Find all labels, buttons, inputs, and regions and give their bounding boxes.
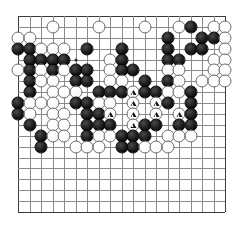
triangle-mark-icon xyxy=(130,123,136,128)
triangle-mark-icon xyxy=(176,112,182,117)
triangle-mark-icon xyxy=(107,112,113,117)
white-stone[interactable] xyxy=(92,140,105,153)
goban-grid[interactable] xyxy=(18,16,225,212)
grid-line-vertical xyxy=(214,16,215,212)
black-stone[interactable] xyxy=(35,140,48,153)
grid-line-horizontal xyxy=(18,190,225,191)
black-stone[interactable] xyxy=(184,20,197,33)
black-stone[interactable] xyxy=(161,97,174,110)
white-stone[interactable] xyxy=(138,20,151,33)
triangle-mark-icon xyxy=(153,112,159,117)
white-stone[interactable] xyxy=(46,20,59,33)
black-stone[interactable] xyxy=(127,64,140,77)
triangle-mark-icon xyxy=(130,101,136,106)
triangle-mark-icon xyxy=(130,90,136,95)
black-stone[interactable] xyxy=(150,118,163,131)
grid-line-horizontal xyxy=(18,168,225,169)
black-stone[interactable] xyxy=(81,75,94,88)
grid-line-horizontal xyxy=(18,179,225,180)
white-stone[interactable] xyxy=(92,20,105,33)
go-board-diagram xyxy=(0,0,241,230)
black-stone[interactable] xyxy=(196,42,209,55)
white-stone[interactable] xyxy=(219,75,232,88)
triangle-mark-icon xyxy=(153,101,159,106)
black-stone[interactable] xyxy=(23,118,36,131)
white-stone[interactable] xyxy=(184,129,197,142)
triangle-mark-icon xyxy=(130,112,136,117)
white-stone[interactable] xyxy=(161,140,174,153)
black-stone[interactable] xyxy=(81,42,94,55)
star-point xyxy=(74,58,77,61)
grid-line-vertical xyxy=(145,16,146,212)
grid-line-horizontal xyxy=(18,212,225,213)
white-stone[interactable] xyxy=(58,129,71,142)
grid-line-horizontal xyxy=(18,158,225,159)
grid-line-horizontal xyxy=(18,201,225,202)
